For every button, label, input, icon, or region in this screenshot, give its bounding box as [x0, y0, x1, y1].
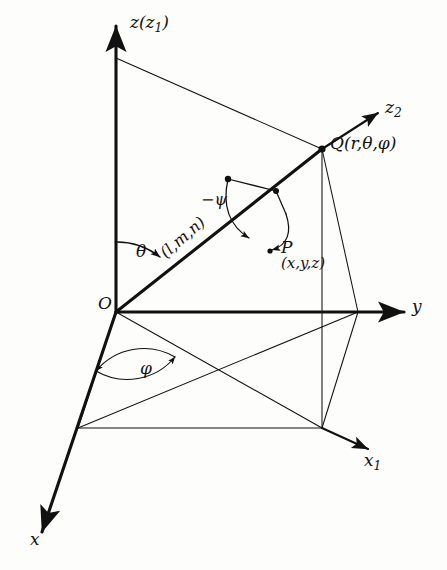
phi-angle-label: φ: [140, 360, 152, 378]
x-axis-line: [42, 312, 116, 532]
z2-axis-label: z2: [385, 99, 402, 120]
z-axis-label-text: z: [130, 12, 139, 32]
marker-point-Q: [318, 145, 325, 152]
marker-psi-origin: [225, 176, 231, 182]
x1-axis-label: x1: [364, 452, 381, 473]
z-axis-label-sub-open: (z: [139, 12, 155, 32]
z2-axis-label-sub: 2: [394, 106, 402, 120]
secondary-axes: [322, 113, 378, 449]
x1-axis-line: [322, 428, 368, 449]
x-axis-label: x: [30, 531, 40, 549]
psi-upper-chord: [228, 179, 276, 191]
line-Q-to-back-right: [322, 149, 358, 312]
psi-angle-label: −ψ: [201, 192, 227, 209]
psi-angle: [226, 179, 289, 250]
z-axis-label-sub-close: ): [162, 12, 169, 32]
radius-vector-OQ: [116, 149, 322, 312]
coordinate-diagram: [0, 0, 447, 570]
point-P-coords: (x,y,z): [281, 256, 325, 272]
point-markers: [225, 145, 326, 253]
x1-axis-label-sub: 1: [374, 459, 382, 473]
origin-label: O: [98, 295, 112, 313]
y-axis-label: y: [412, 298, 422, 316]
main-axes: [42, 26, 404, 532]
theta-angle-label: θ: [136, 243, 146, 261]
marker-point-P: [267, 248, 272, 253]
figure-canvas: z(z1) z2 Q(r,θ,φ) −ψ P (x,y,z) θ (l,m,n)…: [0, 0, 447, 570]
psi-right-chord: [276, 191, 286, 214]
point-Q-coords: (r,θ,φ): [344, 133, 396, 153]
x1-axis-label-text: x: [364, 450, 374, 470]
point-P-label: P (x,y,z): [281, 239, 325, 272]
z-axis-label: z(z1): [130, 14, 169, 35]
line-backright-to-frontright: [322, 312, 358, 428]
phi-angle: [96, 349, 175, 380]
marker-psi-ref: [273, 188, 279, 194]
point-Q-name: Q: [330, 133, 344, 153]
z2-axis-label-text: z: [385, 97, 394, 117]
line-ztop-to-Q: [116, 58, 322, 149]
point-Q-label: Q(r,θ,φ): [330, 135, 396, 153]
